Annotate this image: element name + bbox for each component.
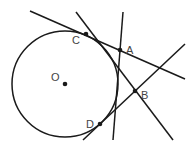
label-c: C: [72, 34, 80, 46]
point-b: [133, 89, 138, 94]
line-CA: [30, 11, 185, 79]
label-d: D: [86, 118, 94, 130]
point-o: [63, 82, 68, 87]
label-a: A: [126, 44, 134, 56]
line-vertical-through-A: [113, 12, 123, 140]
point-a: [118, 48, 123, 53]
label-o: O: [51, 71, 60, 83]
label-b: B: [141, 89, 148, 101]
point-d: [98, 122, 103, 127]
point-c: [84, 32, 89, 37]
geometry-diagram: OCABD: [0, 0, 196, 158]
